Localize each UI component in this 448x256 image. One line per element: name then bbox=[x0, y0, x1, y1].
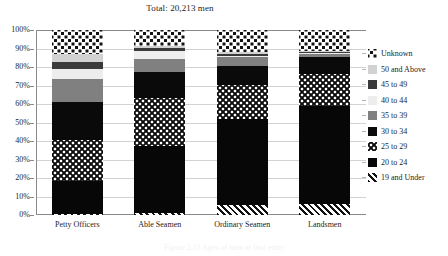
bar-segment[interactable] bbox=[299, 74, 350, 106]
bar-segment[interactable] bbox=[134, 30, 185, 46]
legend-swatch-icon bbox=[368, 173, 377, 182]
y-tick-label: 90% bbox=[15, 45, 30, 53]
legend-label: 19 and Under bbox=[381, 173, 425, 182]
bar-segment[interactable] bbox=[299, 57, 350, 74]
bar-segment[interactable] bbox=[52, 79, 103, 102]
bar-segment[interactable] bbox=[299, 30, 350, 51]
y-tick-mark bbox=[30, 160, 34, 161]
legend-item[interactable]: 35 to 39 bbox=[368, 108, 448, 124]
legend-item[interactable]: 20 to 24 bbox=[368, 155, 448, 171]
legend-swatch-icon bbox=[368, 96, 377, 105]
legend-swatch-icon bbox=[368, 142, 377, 151]
figure-caption: Figure 2.11 Ages of men at first entry bbox=[0, 243, 448, 256]
legend-tick-mark bbox=[362, 131, 366, 132]
legend-item[interactable]: 50 and Above bbox=[368, 62, 448, 78]
bar-segment[interactable] bbox=[299, 51, 350, 52]
bar-segment[interactable] bbox=[52, 62, 103, 69]
legend-item[interactable]: 19 and Under bbox=[368, 170, 448, 186]
legend-item[interactable]: 40 to 44 bbox=[368, 93, 448, 109]
y-tick-mark bbox=[30, 86, 34, 87]
bar-segment[interactable] bbox=[299, 53, 350, 54]
bar-segment[interactable] bbox=[134, 98, 185, 146]
bar-segment[interactable] bbox=[52, 214, 103, 215]
legend-label: 25 to 29 bbox=[381, 142, 407, 151]
bar-segment[interactable] bbox=[134, 48, 185, 51]
chart-legend: Unknown50 and Above45 to 4940 to 4435 to… bbox=[368, 46, 448, 186]
legend-swatch-icon bbox=[368, 80, 377, 89]
y-tick-label: 60% bbox=[15, 100, 30, 108]
legend-swatch-icon bbox=[368, 49, 377, 58]
bar-segment[interactable] bbox=[217, 119, 268, 205]
legend-tick-mark bbox=[362, 84, 366, 85]
y-tick-label: 50% bbox=[15, 119, 30, 127]
bar-column[interactable] bbox=[134, 30, 185, 215]
y-axis: 0%10%20%30%40%50%60%70%80%90%100% bbox=[0, 30, 34, 215]
bar-segment[interactable] bbox=[299, 54, 350, 57]
y-tick-mark bbox=[30, 49, 34, 50]
bar-segment[interactable] bbox=[299, 52, 350, 53]
bar-segment[interactable] bbox=[299, 106, 350, 204]
y-tick-mark bbox=[30, 197, 34, 198]
y-tick-label: 70% bbox=[15, 82, 30, 90]
bar-segment[interactable] bbox=[217, 30, 268, 52]
bar-segment[interactable] bbox=[52, 30, 103, 54]
bar-segment[interactable] bbox=[217, 56, 268, 57]
y-tick-mark bbox=[30, 67, 34, 68]
bar-segment[interactable] bbox=[299, 204, 350, 215]
y-tick-label: 10% bbox=[15, 193, 30, 201]
bar-column[interactable] bbox=[52, 30, 103, 215]
bar-segment[interactable] bbox=[217, 205, 268, 215]
y-tick-mark bbox=[30, 104, 34, 105]
legend-tick-mark bbox=[362, 100, 366, 101]
y-tick-label: 0% bbox=[19, 211, 30, 219]
chart-page: Total: 20,213 men 0%10%20%30%40%50%60%70… bbox=[0, 0, 448, 256]
legend-tick-mark bbox=[362, 69, 366, 70]
bar-segment[interactable] bbox=[217, 85, 268, 119]
bar-segment[interactable] bbox=[217, 66, 268, 85]
y-tick-mark bbox=[30, 123, 34, 124]
legend-swatch-icon bbox=[368, 65, 377, 74]
bar-segment[interactable] bbox=[52, 140, 103, 181]
legend-item[interactable]: 25 to 29 bbox=[368, 139, 448, 155]
y-tick-mark bbox=[30, 141, 34, 142]
x-tick-label: Landsmen bbox=[284, 220, 367, 230]
bar-segment[interactable] bbox=[134, 146, 185, 213]
legend-tick-mark bbox=[362, 177, 366, 178]
legend-item[interactable]: 45 to 49 bbox=[368, 77, 448, 93]
legend-label: 40 to 44 bbox=[381, 96, 407, 105]
legend-label: 30 to 34 bbox=[381, 127, 407, 136]
y-tick-label: 20% bbox=[15, 174, 30, 182]
bar-segment[interactable] bbox=[134, 51, 185, 59]
bar-segment[interactable] bbox=[217, 54, 268, 56]
bar-column[interactable] bbox=[299, 30, 350, 215]
legend-label: 35 to 39 bbox=[381, 111, 407, 120]
bar-group bbox=[36, 30, 366, 215]
x-tick-label: Able Seamen bbox=[119, 220, 202, 230]
y-tick-mark bbox=[30, 178, 34, 179]
bar-segment[interactable] bbox=[134, 46, 185, 48]
legend-item[interactable]: Unknown bbox=[368, 46, 448, 62]
bar-segment[interactable] bbox=[134, 59, 185, 73]
legend-tick-mark bbox=[362, 115, 366, 116]
bar-segment[interactable] bbox=[52, 69, 103, 80]
y-tick-label: 80% bbox=[15, 63, 30, 71]
bar-segment[interactable] bbox=[52, 102, 103, 140]
legend-tick-mark bbox=[362, 53, 366, 54]
legend-swatch-icon bbox=[368, 158, 377, 167]
bar-segment[interactable] bbox=[134, 72, 185, 98]
bar-segment[interactable] bbox=[134, 213, 185, 215]
bar-segment[interactable] bbox=[52, 54, 103, 62]
bar-column[interactable] bbox=[217, 30, 268, 215]
legend-tick-mark bbox=[362, 162, 366, 163]
bar-segment[interactable] bbox=[217, 52, 268, 54]
x-tick-label: Ordinary Seamen bbox=[201, 220, 284, 230]
legend-item[interactable]: 30 to 34 bbox=[368, 124, 448, 140]
y-tick-mark bbox=[30, 30, 34, 31]
legend-label: 50 and Above bbox=[381, 65, 425, 74]
bar-segment[interactable] bbox=[217, 57, 268, 66]
chart-title: Total: 20,213 men bbox=[0, 3, 360, 13]
bar-segment[interactable] bbox=[52, 181, 103, 214]
legend-label: Unknown bbox=[381, 49, 413, 58]
legend-tick-mark bbox=[362, 146, 366, 147]
x-tick-label: Petty Officers bbox=[36, 220, 119, 230]
